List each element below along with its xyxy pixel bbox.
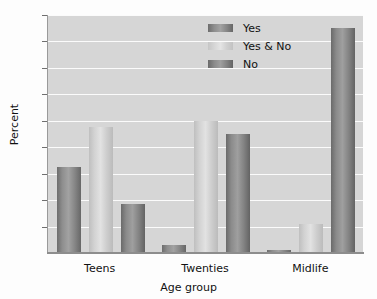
legend-swatch-icon xyxy=(208,42,233,50)
y-tick-mark xyxy=(42,41,47,42)
bar-teens-yes xyxy=(57,167,81,253)
x-axis-line xyxy=(47,252,364,254)
y-tick-mark xyxy=(42,200,47,201)
bar-twenties-yes-no xyxy=(194,121,218,253)
y-tick-mark xyxy=(42,147,47,148)
gridline xyxy=(48,68,363,69)
legend-item-yes: Yes xyxy=(208,19,291,37)
x-tick-label-teens: Teens xyxy=(50,262,150,275)
bar-chart: 0102030405060708090 Percent TeensTwentie… xyxy=(0,0,377,299)
legend-swatch-icon xyxy=(208,24,233,32)
x-tick-label-midlife: Midlife xyxy=(260,262,360,275)
bar-teens-no xyxy=(121,204,145,253)
legend: YesYes & NoNo xyxy=(208,19,291,73)
legend-swatch-icon xyxy=(208,60,233,68)
y-tick-mark xyxy=(42,68,47,69)
x-axis-title: Age group xyxy=(0,281,377,294)
legend-item-no: No xyxy=(208,55,291,73)
legend-label: Yes xyxy=(243,22,261,35)
gridline xyxy=(48,41,363,42)
bar-twenties-no xyxy=(226,134,250,253)
legend-label: Yes & No xyxy=(243,40,291,53)
y-tick-mark xyxy=(42,15,47,16)
legend-item-yes-no: Yes & No xyxy=(208,37,291,55)
legend-label: No xyxy=(243,58,258,71)
x-tick-label-twenties: Twenties xyxy=(155,262,255,275)
plot-area xyxy=(47,15,363,253)
y-tick-mark xyxy=(42,227,47,228)
chart-title xyxy=(0,0,377,7)
y-axis-title: Percent xyxy=(8,80,21,170)
y-tick-mark xyxy=(42,94,47,95)
y-tick-mark xyxy=(42,174,47,175)
bar-midlife-yes-no xyxy=(299,224,323,253)
bar-midlife-no xyxy=(331,28,355,253)
gridline xyxy=(48,15,363,16)
bar-teens-yes-no xyxy=(89,127,113,253)
y-tick-mark xyxy=(42,121,47,122)
gridline xyxy=(48,94,363,95)
